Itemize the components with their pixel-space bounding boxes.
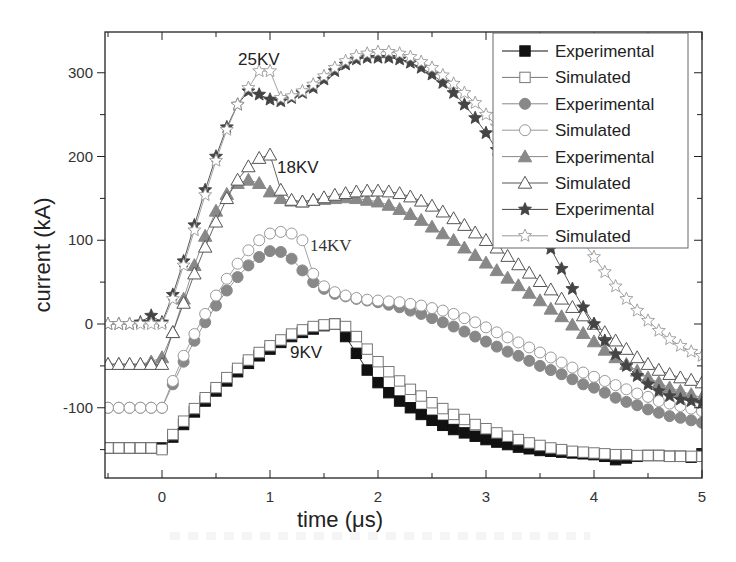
open-square-marker-icon: [308, 321, 318, 331]
legend-label: Experimental: [555, 42, 654, 61]
legend-label: Experimental: [555, 200, 654, 219]
open-circle-marker-icon: [383, 296, 394, 307]
open-circle-marker-icon: [394, 297, 405, 308]
filled-triangle-marker-icon: [436, 227, 449, 239]
open-square-marker-icon: [546, 443, 556, 453]
open-square-marker-icon: [600, 449, 610, 459]
open-square-marker-icon: [373, 356, 383, 366]
filled-circle-marker-icon: [232, 272, 243, 283]
open-square-marker-icon: [438, 403, 448, 413]
open-square-marker-icon: [384, 367, 394, 377]
legend-label: Simulated: [555, 68, 631, 87]
open-circle-marker-icon: [589, 371, 600, 382]
open-square-marker-icon: [567, 446, 577, 456]
open-circle-marker-icon: [221, 273, 232, 284]
filled-square-marker-icon: [438, 420, 448, 430]
filled-circle-marker-icon: [286, 253, 297, 264]
open-circle-marker-icon: [167, 375, 178, 386]
x-tick-label: 0: [158, 488, 166, 505]
legend-label: Simulated: [555, 227, 631, 246]
open-circle-legend-icon: [520, 125, 531, 136]
legend-label: Experimental: [555, 148, 654, 167]
open-square-marker-icon: [232, 363, 242, 373]
open-square-marker-icon: [427, 398, 437, 408]
filled-circle-marker-icon: [675, 412, 686, 423]
current-vs-time-chart: 012345 -1000100200300 time (μs) current …: [0, 0, 736, 562]
open-square-marker-icon: [610, 449, 620, 459]
open-square-marker-icon: [286, 329, 296, 339]
filled-circle-marker-icon: [481, 336, 492, 347]
open-circle-marker-icon: [643, 391, 654, 402]
filled-square-marker-icon: [373, 377, 383, 387]
open-circle-marker-icon: [200, 308, 211, 319]
open-circle-marker-icon: [308, 268, 319, 279]
open-circle-marker-icon: [319, 281, 330, 292]
filled-circle-marker-icon: [513, 350, 524, 361]
open-circle-marker-icon: [491, 327, 502, 338]
x-tick-label: 1: [266, 488, 274, 505]
y-tick-label: -100: [63, 399, 93, 416]
open-square-marker-icon: [502, 431, 512, 441]
filled-circle-marker-icon: [265, 246, 276, 257]
open-square-marker-icon: [146, 443, 156, 453]
annotation-18kv: 18KV: [277, 158, 319, 177]
open-triangle-marker-icon: [641, 358, 654, 370]
open-triangle-marker-icon: [199, 240, 212, 252]
open-square-marker-icon: [265, 341, 275, 351]
open-circle-marker-icon: [437, 305, 448, 316]
open-star-marker-icon: [598, 265, 611, 277]
open-square-marker-icon: [394, 376, 404, 386]
open-square-marker-icon: [481, 423, 491, 433]
open-circle-marker-icon: [632, 388, 643, 399]
open-square-marker-icon: [330, 319, 340, 329]
open-square-marker-icon: [276, 335, 286, 345]
filled-circle-marker-icon: [243, 260, 254, 271]
filled-triangle-marker-icon: [253, 177, 266, 189]
open-circle-marker-icon: [481, 322, 492, 333]
filled-triangle-marker-icon: [469, 249, 482, 261]
open-triangle-marker-icon: [674, 371, 687, 383]
filled-star-marker-icon: [555, 262, 568, 274]
filled-circle-marker-icon: [221, 285, 232, 296]
open-square-marker-icon: [297, 325, 307, 335]
open-triangle-marker-icon: [166, 326, 179, 338]
open-square-marker-icon: [351, 331, 361, 341]
open-square-marker-icon: [222, 372, 232, 382]
open-star-marker-icon: [469, 96, 482, 108]
filled-circle-marker-icon: [491, 341, 502, 352]
legend-label: Experimental: [555, 95, 654, 114]
filled-square-marker-icon: [362, 365, 372, 375]
open-circle-marker-icon: [340, 290, 351, 301]
open-square-marker-icon: [135, 443, 145, 453]
open-square-marker-icon: [589, 448, 599, 458]
open-square-marker-icon: [405, 384, 415, 394]
open-circle-marker-icon: [275, 226, 286, 237]
annotation-9kv: 9KV: [290, 343, 323, 362]
open-circle-marker-icon: [502, 332, 513, 343]
open-circle-marker-icon: [232, 258, 243, 269]
filled-triangle-marker-icon: [523, 286, 536, 298]
filled-star-marker-icon: [480, 126, 493, 138]
filled-triangle-marker-icon: [512, 279, 525, 291]
open-square-marker-icon: [578, 447, 588, 457]
filled-circle-marker-icon: [297, 265, 308, 276]
y-tick-label: 0: [85, 315, 93, 332]
open-circle-marker-icon: [578, 367, 589, 378]
open-circle-marker-icon: [653, 396, 664, 407]
filled-circle-marker-icon: [653, 407, 664, 418]
open-circle-marker-icon: [599, 375, 610, 386]
filled-circle-marker-icon: [567, 374, 578, 385]
filled-circle-marker-icon: [459, 326, 470, 337]
open-circle-marker-icon: [610, 380, 621, 391]
annotation-25kv: 25KV: [238, 50, 280, 69]
open-circle-marker-icon: [124, 402, 135, 413]
open-triangle-marker-icon: [447, 212, 460, 224]
open-circle-marker-icon: [254, 235, 265, 246]
open-circle-marker-icon: [427, 303, 438, 314]
open-star-marker-icon: [588, 250, 601, 262]
open-square-marker-icon: [168, 429, 178, 439]
open-circle-marker-icon: [211, 290, 222, 301]
filled-circle-marker-icon: [448, 321, 459, 332]
open-triangle-marker-icon: [404, 190, 417, 202]
annotation-14kv: 14KV: [310, 236, 352, 255]
